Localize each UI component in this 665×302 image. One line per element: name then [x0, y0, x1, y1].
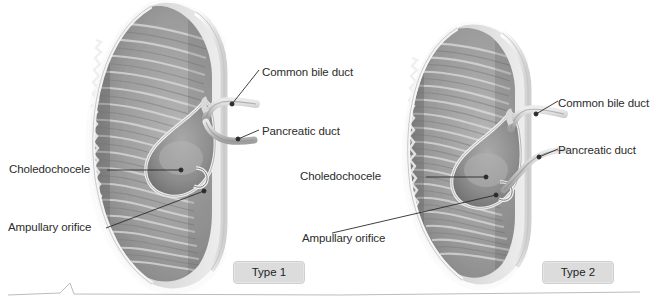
figure-canvas: Common bile duct Pancreatic duct Choledo… [0, 0, 665, 302]
bottom-rule-line [8, 283, 640, 295]
figure-bottom-rule [0, 0, 665, 302]
